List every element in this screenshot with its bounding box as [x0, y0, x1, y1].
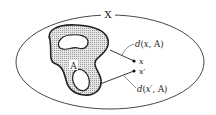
- set-a-label: A: [69, 61, 77, 71]
- space-x-ellipse: [16, 15, 204, 109]
- set-a-hole-upper: [58, 35, 88, 50]
- point-x-prime-label: x′: [139, 67, 146, 76]
- leader-d-x: [122, 44, 134, 55]
- distance-line-x-prime: [100, 71, 134, 84]
- leader-d-x-prime: [124, 76, 136, 88]
- point-x-prime: [132, 69, 135, 72]
- space-x-label: X: [104, 9, 112, 20]
- distance-diagram: X A x x′ d(x, A) d(x′, A): [0, 0, 216, 115]
- distance-label-x: d(x, A): [135, 39, 163, 49]
- distance-label-x-prime: d(x′, A): [137, 84, 167, 94]
- point-x: [132, 59, 135, 62]
- distance-line-x: [110, 50, 134, 61]
- point-x-label: x: [139, 57, 144, 66]
